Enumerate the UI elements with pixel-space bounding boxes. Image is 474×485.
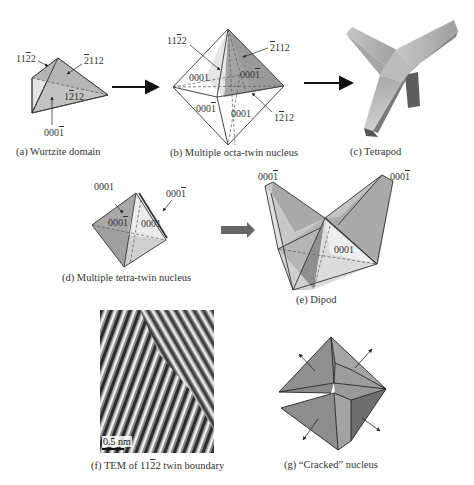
- label-000-1: 0001: [240, 69, 260, 80]
- label-1-2-12: 1212: [64, 91, 84, 102]
- label-000-1: 0001: [258, 171, 278, 182]
- scale-bar-label: 0.5 nm: [102, 436, 132, 447]
- label-000-1: 0001: [196, 103, 216, 114]
- octa-twin-nucleus-diagram: [173, 29, 284, 145]
- caption-e: (e) Dipod: [296, 294, 337, 305]
- label-000-1: 0001: [390, 171, 410, 182]
- caption-a: (a) Wurtzite domain: [16, 146, 101, 157]
- tetra-twin-nucleus-diagram: [92, 193, 172, 267]
- caption-b: (b) Multiple octa-twin nucleus: [170, 147, 298, 158]
- label-000-1: 0001: [166, 188, 186, 199]
- label-0001: 0001: [94, 181, 114, 192]
- label-000-1: 0001: [44, 127, 64, 138]
- dipod-diagram: [265, 175, 393, 290]
- caption-d: (d) Multiple tetra-twin nucleus: [62, 272, 191, 283]
- tem-image: [100, 310, 214, 453]
- label-000-1: 0001: [108, 217, 128, 228]
- label-11-2-2: 1122: [167, 35, 187, 46]
- tetrapod-diagram: [346, 20, 458, 137]
- caption-c: (c) Tetrapod: [350, 146, 401, 157]
- label-0001: 0001: [189, 72, 209, 83]
- cracked-nucleus-diagram: [279, 337, 386, 450]
- caption-g: (g) “Cracked” nucleus: [284, 459, 378, 470]
- label-0001: 0001: [231, 108, 251, 119]
- label-2-112: 2112: [270, 42, 290, 53]
- label-0001: 0001: [141, 218, 161, 229]
- arrow-d-to-e: [221, 222, 255, 238]
- caption-f: (f) TEM of 1122 twin boundary: [91, 460, 224, 471]
- label-11-2-2: 1122: [16, 53, 36, 64]
- label-2-112: 2112: [84, 55, 104, 66]
- label-1-2-12: 1212: [274, 112, 294, 123]
- figure-canvas: 1122 2112 1212 0001 1122 2112 0001 0001 …: [0, 0, 474, 485]
- scale-bar: [102, 448, 124, 450]
- label-0001: 0001: [334, 244, 354, 255]
